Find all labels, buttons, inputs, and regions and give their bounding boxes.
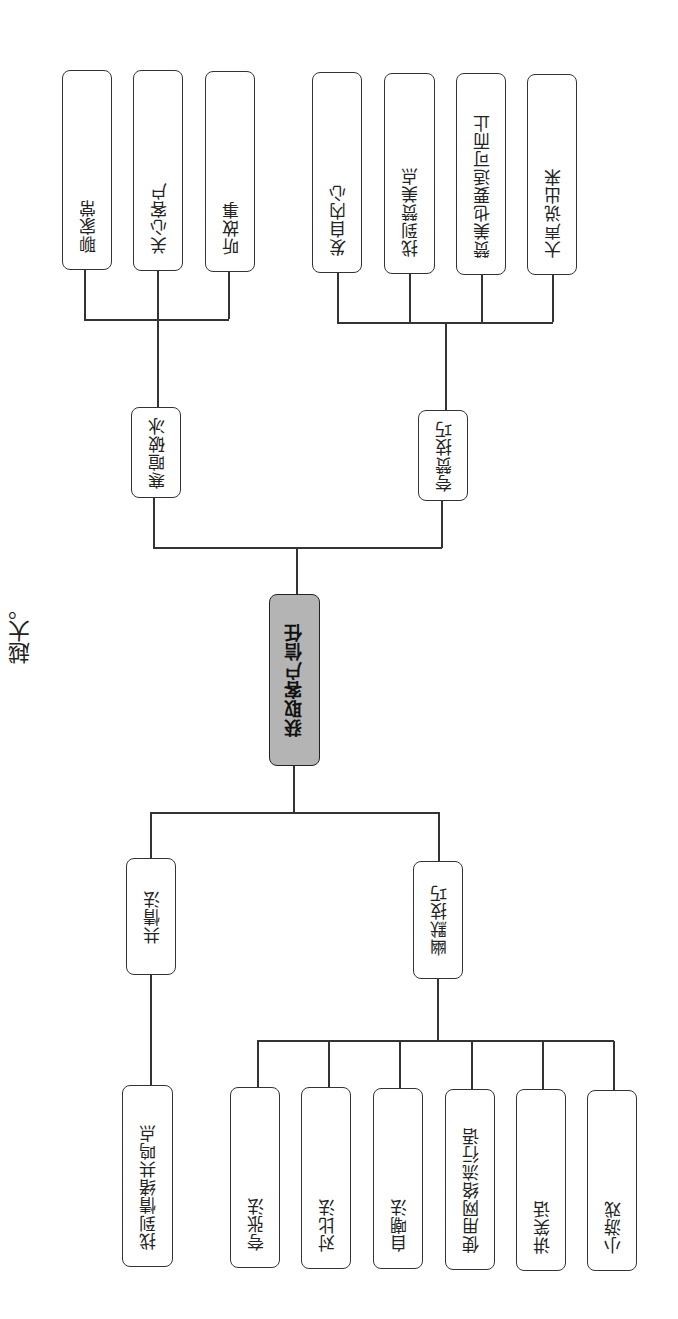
node-small-games[interactable]: 小游戏 <box>587 1090 637 1271</box>
node-praise-moderately[interactable]: 赞美也要适可而止 <box>456 73 506 275</box>
node-find-praise-point[interactable]: 找到赞美点 <box>384 73 435 274</box>
connector <box>409 274 411 322</box>
node-label: 关心客户 <box>146 182 171 270</box>
node-contrast[interactable]: 对比法 <box>301 1087 351 1269</box>
node-listen-story[interactable]: 听故事 <box>205 71 255 272</box>
node-label: 对比法 <box>314 1198 339 1268</box>
node-label: 找到赞美点 <box>397 167 422 273</box>
node-self-deprecation[interactable]: 自嘲法 <box>373 1088 423 1269</box>
connector <box>337 273 339 322</box>
connector <box>150 812 439 814</box>
node-label: 幽默技巧 <box>426 884 451 956</box>
connector <box>157 271 159 407</box>
connector <box>441 501 443 548</box>
connector <box>481 275 483 322</box>
node-internet-slang[interactable]: 使用网络流行语 <box>445 1089 495 1270</box>
connector <box>552 275 554 322</box>
connector <box>296 547 298 594</box>
connector <box>445 322 447 410</box>
node-humor-skills[interactable]: 幽默技巧 <box>413 861 463 979</box>
node-chat-family[interactable]: 聊家常 <box>62 70 112 270</box>
connector <box>84 270 86 319</box>
connector <box>437 979 439 1041</box>
connector <box>257 1040 259 1087</box>
connector <box>84 319 229 321</box>
node-exaggeration[interactable]: 夸张法 <box>230 1087 280 1268</box>
connector <box>471 1041 473 1089</box>
node-care-customer[interactable]: 关心客户 <box>133 70 183 271</box>
node-label: 小游戏 <box>600 1200 625 1270</box>
connector <box>438 812 440 861</box>
connector <box>399 1040 401 1088</box>
node-label: 夸赞技巧 <box>431 420 456 492</box>
node-label: 赞美也要适可而止 <box>469 114 494 274</box>
connector <box>613 1041 615 1090</box>
node-label: 讲笑话 <box>529 1200 554 1270</box>
node-label: 自嘲法 <box>386 1198 411 1268</box>
node-label: 寒暄破冰 <box>144 417 169 489</box>
connector <box>293 766 295 813</box>
node-label: 听故事 <box>218 201 243 271</box>
page-fragment-text: 越大。 <box>6 598 38 664</box>
node-label: 共情法 <box>139 890 164 944</box>
connector <box>150 975 152 1085</box>
connector <box>153 498 155 548</box>
node-label: 使用网络流行语 <box>458 1127 483 1269</box>
node-tell-jokes[interactable]: 讲笑话 <box>516 1089 566 1271</box>
connector <box>228 272 230 319</box>
node-find-emotional-resonance[interactable]: 找到情绪共鸣点 <box>122 1085 173 1267</box>
connector <box>328 1040 330 1087</box>
node-label: 大声说出来 <box>540 168 565 274</box>
node-praise-skills[interactable]: 夸赞技巧 <box>418 410 468 501</box>
node-empathy[interactable]: 共情法 <box>126 858 176 975</box>
node-say-aloud[interactable]: 大声说出来 <box>527 74 577 275</box>
connector <box>257 1040 614 1042</box>
connector <box>153 547 442 549</box>
connector <box>542 1041 544 1089</box>
root-node[interactable]: 获取客户信任 <box>269 594 320 766</box>
node-label: 聊家常 <box>75 199 100 269</box>
connector <box>150 812 152 858</box>
root-label: 获取客户信任 <box>282 623 308 737</box>
node-label: 发自内心 <box>325 184 350 272</box>
node-sincere[interactable]: 发自内心 <box>312 72 362 273</box>
node-icebreak[interactable]: 寒暄破冰 <box>131 407 181 498</box>
node-label: 夸张法 <box>243 1197 268 1267</box>
node-label: 找到情绪共鸣点 <box>135 1124 160 1266</box>
